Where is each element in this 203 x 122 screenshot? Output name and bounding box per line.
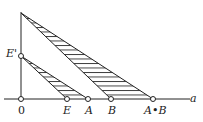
diagram: 0 E' E A B A•B a [0,0,203,122]
point-ab [151,97,156,102]
point-origin [19,97,24,102]
label-e: E [62,104,71,117]
point-e [65,97,70,102]
label-a: A [84,104,93,117]
line-eprime-to-e [21,56,67,99]
point-e-prime [19,54,24,59]
label-b: B [107,104,116,117]
label-origin: 0 [18,104,25,117]
label-e-prime: E' [5,47,17,60]
line-top-to-ab [21,13,153,99]
label-axis: a [190,92,197,105]
point-b [109,97,114,102]
label-ab: A•B [143,104,167,117]
point-a [86,97,91,102]
